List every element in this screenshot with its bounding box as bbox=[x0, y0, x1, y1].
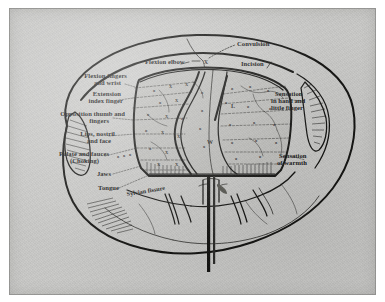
label-sensation-hand-line3: little finger bbox=[271, 104, 303, 111]
label-tongue: Tongue bbox=[98, 184, 119, 191]
retractor-instrument bbox=[199, 176, 227, 272]
label-flexion-fingers-wrist-line1: Flexion fingers bbox=[84, 72, 127, 79]
label-sensation-hand-line2: in hand and bbox=[271, 97, 306, 104]
label-convulsion: Convulsion bbox=[237, 40, 270, 47]
svg-text:L: L bbox=[231, 103, 235, 109]
label-sensation-warmth-line2: of warmth bbox=[277, 159, 307, 166]
label-extension-index-finger-line2: index finger bbox=[89, 97, 124, 104]
svg-text:o: o bbox=[117, 154, 120, 159]
illustration-plate: X o X X o X o X o o X X o X X X o o o o … bbox=[9, 8, 376, 295]
label-group-inner: Sylvian fissure bbox=[126, 185, 165, 197]
lower-brain-contours bbox=[105, 172, 319, 244]
label-lips-nostril-face-line1: Lips, nostril bbox=[80, 130, 115, 137]
label-sensation-warmth-line1: Sensation bbox=[279, 152, 307, 159]
temporal-hatching bbox=[87, 198, 133, 233]
label-sylvian-fissure: Sylvian fissure bbox=[126, 185, 165, 197]
label-sensation-hand-line1: Sensation bbox=[275, 90, 303, 97]
svg-text:o: o bbox=[129, 152, 132, 157]
scalp-flap-hatching-right bbox=[301, 82, 327, 151]
label-lips-nostril-face-line2: and face bbox=[87, 137, 111, 144]
label-opposition-thumb-line2: fingers bbox=[89, 117, 109, 124]
label-jaws: Jaws bbox=[97, 170, 112, 177]
svg-text:o: o bbox=[123, 153, 126, 158]
label-flexion-fingers-wrist-line2: and wrist bbox=[94, 79, 122, 86]
label-palate-fauces-line1: Palate and fauces bbox=[59, 150, 109, 157]
label-group-left: Flexion fingers and wrist Extension inde… bbox=[59, 72, 127, 191]
convulsion-x-glyph: X bbox=[204, 59, 209, 65]
label-flexion-elbow: Flexion elbow bbox=[145, 58, 185, 65]
brain-diagram-figure: X o X X o X o X o o X X o X X X o o o o … bbox=[9, 8, 376, 295]
svg-text:W: W bbox=[207, 139, 213, 145]
label-incision: Incision bbox=[241, 60, 264, 67]
label-palate-fauces-line2: (Choking) bbox=[70, 157, 99, 165]
label-extension-index-finger-line1: Extension bbox=[93, 90, 122, 97]
label-opposition-thumb-line1: Opposition thumb and bbox=[60, 110, 125, 117]
craniotomy-window bbox=[134, 68, 292, 177]
